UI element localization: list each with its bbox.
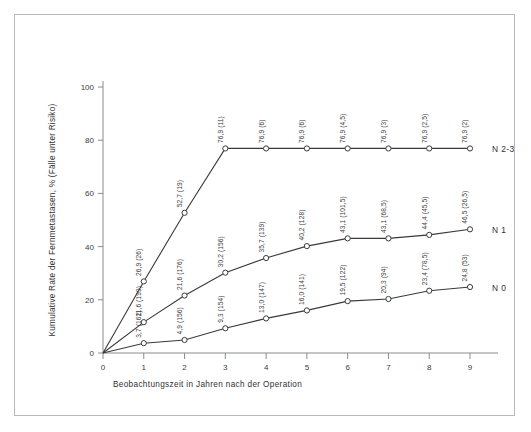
data-point-label: 40,2 (128) [298, 210, 306, 241]
figure-frame: 0204060801000123456789Beobachtungszeit i… [14, 14, 515, 416]
x-axis-tick-label: 7 [386, 363, 391, 372]
x-axis-tick-label: 6 [345, 363, 350, 372]
data-point-label: 76,9 (6) [298, 119, 306, 143]
data-point-marker[interactable] [345, 236, 350, 241]
data-point-marker[interactable] [264, 316, 269, 321]
data-point-marker[interactable] [386, 236, 391, 241]
data-point-marker[interactable] [467, 227, 472, 232]
data-point-label: 24,8 (53) [461, 254, 469, 281]
y-axis-tick-label: 100 [81, 83, 95, 92]
data-point-label: 16,0 (141) [298, 274, 306, 305]
x-axis-tick-label: 1 [142, 363, 147, 372]
series-label-n-1: N 1 [492, 225, 506, 235]
data-point-label: 76,9 (11) [217, 116, 225, 143]
y-axis-title: Kumulative Rate der Fernmetastasen, % (F… [48, 104, 57, 337]
data-point-marker[interactable] [345, 299, 350, 304]
series-label-n-0: N 0 [492, 283, 506, 293]
data-point-label: 52,7 (19) [176, 180, 184, 207]
chart-canvas: 0204060801000123456789Beobachtungszeit i… [15, 15, 514, 415]
data-point-marker[interactable] [264, 146, 269, 151]
data-point-marker[interactable] [467, 284, 472, 289]
series-line-n-1 [103, 229, 470, 353]
data-point-marker[interactable] [141, 279, 146, 284]
data-point-marker[interactable] [141, 341, 146, 346]
data-point-label: 9,3 (154) [217, 296, 225, 323]
data-point-label: 76,9 (4,5) [339, 114, 347, 143]
data-point-marker[interactable] [427, 146, 432, 151]
data-point-label: 26,9 (26) [135, 249, 143, 276]
data-point-marker[interactable] [427, 232, 432, 237]
data-point-label: 20,3 (94) [380, 266, 388, 293]
data-point-marker[interactable] [427, 288, 432, 293]
data-point-label: 35,7 (139) [258, 221, 266, 252]
y-axis-tick-label: 60 [85, 189, 94, 198]
x-axis-tick-label: 5 [305, 363, 310, 372]
data-point-marker[interactable] [467, 146, 472, 151]
data-point-marker[interactable] [182, 210, 187, 215]
data-point-marker[interactable] [223, 146, 228, 151]
data-point-label: 43,1 (68,5) [380, 200, 388, 233]
x-axis-tick-label: 4 [264, 363, 269, 372]
x-axis-tick-label: 3 [223, 363, 228, 372]
data-point-marker[interactable] [182, 293, 187, 298]
data-point-label: 23,4 (78,5) [421, 252, 429, 285]
data-point-label: 30,2 (156) [217, 236, 225, 267]
data-point-marker[interactable] [223, 270, 228, 275]
data-point-label: 3,7 (162) [135, 310, 143, 337]
y-axis-tick-label: 40 [85, 243, 94, 252]
series-line-n-2-3 [103, 148, 470, 353]
x-axis-tick-label: 0 [101, 363, 106, 372]
series-label-n-2-3: N 2-3 [492, 144, 514, 154]
data-point-label: 43,1 (101,5) [339, 196, 347, 233]
data-point-label: 13,0 (147) [258, 282, 266, 313]
data-point-label: 76,9 (3) [380, 119, 388, 143]
data-point-label: 44,4 (45,5) [421, 196, 429, 229]
y-axis-tick-label: 20 [85, 296, 94, 305]
data-point-marker[interactable] [304, 308, 309, 313]
data-point-label: 21,6 (176) [176, 259, 184, 290]
data-point-marker[interactable] [386, 296, 391, 301]
data-point-marker[interactable] [386, 146, 391, 151]
x-axis-title: Beobachtungszeit in Jahren nach der Oper… [113, 380, 302, 389]
series-line-n-0 [103, 287, 470, 353]
data-point-label: 4,9 (156) [176, 307, 184, 334]
data-point-marker[interactable] [264, 255, 269, 260]
data-point-label: 46,5 (26,5) [461, 191, 469, 224]
data-point-label: 76,9 (2,5) [421, 114, 429, 143]
data-point-marker[interactable] [304, 243, 309, 248]
y-axis-tick-label: 0 [90, 349, 95, 358]
x-axis-tick-label: 9 [468, 363, 473, 372]
data-point-marker[interactable] [223, 326, 228, 331]
x-axis-tick-label: 8 [427, 363, 432, 372]
data-point-marker[interactable] [182, 337, 187, 342]
data-point-label: 76,9 (6) [258, 119, 266, 143]
y-axis-tick-label: 80 [85, 136, 94, 145]
line-chart: 0204060801000123456789Beobachtungszeit i… [15, 15, 514, 415]
x-axis-tick-label: 2 [182, 363, 187, 372]
data-point-marker[interactable] [304, 146, 309, 151]
data-point-label: 76,9 (2) [461, 119, 469, 143]
data-point-label: 19,5 (122) [339, 265, 347, 296]
data-point-marker[interactable] [345, 146, 350, 151]
